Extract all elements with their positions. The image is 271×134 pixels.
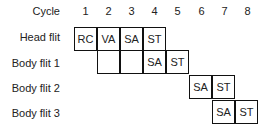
cycle-header-8: 8 (236, 5, 259, 17)
row-label-body-flit-1: Body flit 1 (12, 57, 60, 69)
cycle-header-1: 1 (74, 5, 97, 17)
stage-cell: RC (74, 27, 97, 51)
row-label-body-flit-2: Body flit 2 (12, 82, 60, 94)
row-label-body-flit-3: Body flit 3 (12, 107, 60, 119)
cycle-header-4: 4 (143, 5, 166, 17)
stage-cell-empty (120, 50, 143, 74)
stage-cell: SA (143, 50, 166, 74)
stage-cell: ST (212, 75, 235, 99)
cycle-header-3: 3 (120, 5, 143, 17)
stage-cell: ST (235, 100, 258, 124)
stage-cell: VA (97, 27, 120, 51)
row-label-head-flit: Head flit (20, 31, 60, 43)
stage-cell: SA (120, 27, 143, 51)
cycle-header-6: 6 (190, 5, 213, 17)
stage-cell: SA (189, 75, 212, 99)
stage-cell: SA (212, 100, 235, 124)
cycle-header-7: 7 (213, 5, 236, 17)
cycle-label: Cycle (32, 5, 60, 17)
cycle-header-5: 5 (166, 5, 189, 17)
stage-cell: ST (166, 50, 189, 74)
stage-cell-empty (97, 50, 120, 74)
stage-cell: ST (143, 27, 166, 51)
cycle-header-2: 2 (97, 5, 120, 17)
